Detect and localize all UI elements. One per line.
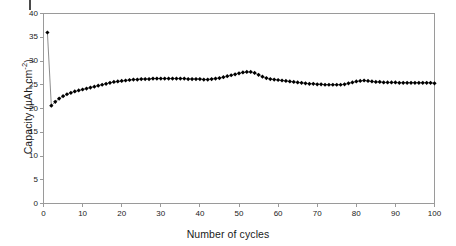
x-tick-label: 90 bbox=[380, 209, 410, 218]
y-axis-title-exponent: -2 bbox=[20, 63, 29, 70]
y-axis-title: Capacity (µAh.cm-2) bbox=[20, 12, 34, 202]
data-series-markers bbox=[45, 30, 436, 107]
x-tick-label: 0 bbox=[29, 209, 59, 218]
x-tick-label: 80 bbox=[341, 209, 371, 218]
x-tick-label: 20 bbox=[107, 209, 137, 218]
x-axis-title: Number of cycles bbox=[0, 228, 456, 240]
plot-frame bbox=[44, 14, 435, 204]
x-tick-label: 60 bbox=[263, 209, 293, 218]
x-tick-label: 100 bbox=[420, 209, 450, 218]
x-tick-label: 70 bbox=[302, 209, 332, 218]
y-axis-title-tail: ) bbox=[22, 59, 34, 63]
chart-screenshot: 0510152025303540 0102030405060708090100 … bbox=[0, 0, 456, 246]
x-tick-label: 10 bbox=[68, 209, 98, 218]
x-tick-label: 30 bbox=[146, 209, 176, 218]
capacity-vs-cycles-chart: 0510152025303540 0102030405060708090100 … bbox=[0, 0, 456, 246]
x-axis-ticks bbox=[44, 204, 435, 208]
x-tick-label: 40 bbox=[185, 209, 215, 218]
y-axis-title-main: Capacity (µAh.cm bbox=[22, 70, 34, 155]
x-tick-label: 50 bbox=[224, 209, 254, 218]
data-series-line bbox=[47, 33, 434, 106]
y-axis-ticks bbox=[40, 14, 44, 204]
